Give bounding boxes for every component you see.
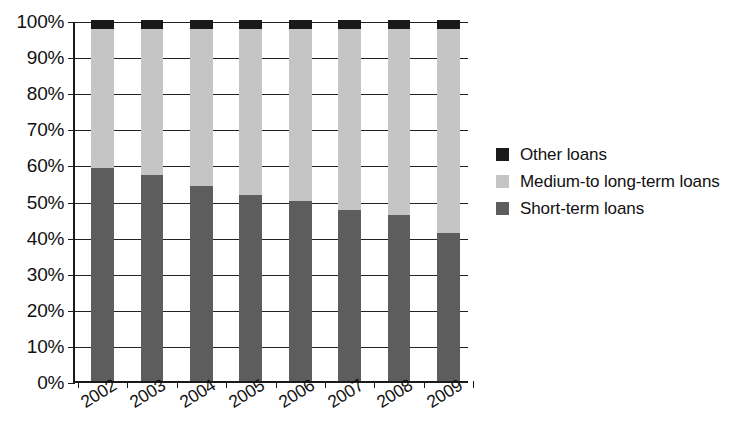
bar-segment[interactable] (239, 195, 262, 381)
bar-stack[interactable] (388, 20, 411, 381)
bar-segment[interactable] (190, 29, 213, 186)
y-axis-tick-label: 0% (37, 372, 64, 394)
y-axis-tickmark (68, 203, 75, 204)
bar-segment[interactable] (437, 20, 460, 29)
y-axis-tick-label: 60% (27, 155, 64, 177)
bar-segment[interactable] (91, 20, 114, 29)
bar-segment[interactable] (289, 201, 312, 382)
legend-item[interactable]: Medium-to long-term loans (496, 168, 746, 195)
bar-stack[interactable] (338, 20, 361, 381)
y-axis-tick-label: 80% (27, 83, 64, 105)
plot-area (73, 22, 468, 383)
legend-swatch-icon (496, 148, 509, 161)
bar-segment[interactable] (388, 215, 411, 381)
stacked-bar-chart-figure: 0%10%20%30%40%50%60%70%80%90%100% 200220… (0, 0, 751, 423)
y-axis-tickmark (68, 275, 75, 276)
bar-stack[interactable] (289, 20, 312, 381)
y-axis-tickmark (68, 58, 75, 59)
bar-segment[interactable] (289, 29, 312, 200)
legend-swatch-icon (496, 202, 509, 215)
legend-label: Medium-to long-term loans (520, 172, 720, 192)
y-axis-tick-label: 100% (17, 11, 64, 33)
y-axis-tick-labels: 0%10%20%30%40%50%60%70%80%90%100% (0, 0, 68, 423)
y-axis-tick-label: 30% (27, 264, 64, 286)
legend-item[interactable]: Short-term loans (496, 195, 746, 222)
bar-series-layer (75, 22, 468, 381)
x-axis-tickmark (473, 381, 474, 388)
y-axis-tickmark (68, 22, 75, 23)
bar-segment[interactable] (338, 29, 361, 210)
y-axis-tickmark (68, 347, 75, 348)
bar-segment[interactable] (239, 29, 262, 195)
y-axis-tickmark (68, 94, 75, 95)
bar-segment[interactable] (141, 20, 164, 29)
bar-segment[interactable] (239, 20, 262, 29)
y-axis-tickmark (68, 130, 75, 131)
bar-segment[interactable] (190, 186, 213, 381)
bar-segment[interactable] (437, 29, 460, 233)
bar-segment[interactable] (388, 29, 411, 215)
bar-segment[interactable] (190, 20, 213, 29)
bar-stack[interactable] (190, 20, 213, 381)
legend-item[interactable]: Other loans (496, 141, 746, 168)
bar-stack[interactable] (141, 20, 164, 381)
y-axis-tickmark (68, 311, 75, 312)
y-axis-tickmark (68, 239, 75, 240)
x-axis-tick-labels: 20022003200420052006200720082009 (73, 383, 468, 423)
y-axis-tick-label: 50% (27, 192, 64, 214)
bar-segment[interactable] (91, 168, 114, 381)
bar-stack[interactable] (437, 20, 460, 381)
bar-segment[interactable] (437, 233, 460, 381)
bar-stack[interactable] (239, 20, 262, 381)
y-axis-tickmark (68, 166, 75, 167)
chart-legend: Other loansMedium-to long-term loansShor… (496, 141, 746, 222)
bar-segment[interactable] (141, 29, 164, 175)
y-axis-tick-label: 70% (27, 119, 64, 141)
bar-segment[interactable] (338, 210, 361, 381)
bar-segment[interactable] (388, 20, 411, 29)
legend-label: Short-term loans (520, 199, 644, 219)
bar-segment[interactable] (289, 20, 312, 29)
bar-segment[interactable] (91, 29, 114, 168)
legend-swatch-icon (496, 175, 509, 188)
y-axis-tick-label: 90% (27, 47, 64, 69)
bar-stack[interactable] (91, 20, 114, 381)
legend-label: Other loans (520, 145, 607, 165)
y-axis-tick-label: 40% (27, 228, 64, 250)
y-axis-tick-label: 20% (27, 300, 64, 322)
bar-segment[interactable] (141, 175, 164, 381)
y-axis-tick-label: 10% (27, 336, 64, 358)
bar-segment[interactable] (338, 20, 361, 29)
